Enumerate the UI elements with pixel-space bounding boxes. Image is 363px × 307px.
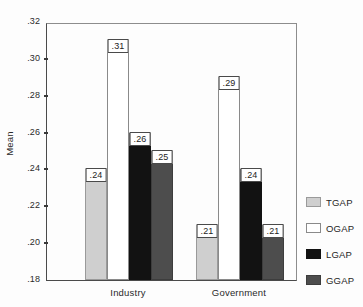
y-axis-tick-mark [44,95,48,97]
legend-item-ogap[interactable]: OGAP [306,222,354,234]
plot-area: .18.20.22.24.26.28.30.32 .24.31.26.25.21… [46,23,297,281]
legend-swatch-ggap [306,275,321,285]
bar-lgap-government [240,169,262,280]
legend-swatch-ogap [306,223,321,233]
legend-label: OGAP [326,223,354,234]
y-axis-tick-label: .26 [27,127,40,137]
bar-value-label: .21 [197,224,218,238]
y-axis-tick-mark [44,168,48,170]
bar-value-label: .21 [263,224,284,238]
y-axis-tick-mark [44,58,48,60]
legend-item-tgap[interactable]: TGAP [306,196,353,208]
bar-value-label: .31 [108,39,129,53]
bar-ogap-industry [107,40,129,280]
legend-label: LGAP [326,249,352,260]
chart-figure: Mean .18.20.22.24.26.28.30.32 .24.31.26.… [0,0,363,307]
bar-value-label: .24 [86,168,107,182]
legend-item-lgap[interactable]: LGAP [306,248,352,260]
bar-tgap-industry [85,169,107,280]
bar-value-label: .26 [130,132,151,146]
y-axis-tick-label: .22 [27,200,40,210]
x-axis-label-government: Government [212,287,266,298]
legend-swatch-tgap [306,197,321,207]
y-axis-tick-label: .24 [27,163,40,173]
x-axis-label-industry: Industry [110,287,145,298]
legend-label: GGAP [326,275,354,286]
bar-lgap-industry [129,133,151,280]
bar-value-label: .29 [219,76,240,90]
bar-ogap-government [218,77,240,280]
legend-label: TGAP [326,197,353,208]
y-axis-tick-label: .20 [27,237,40,247]
y-axis-tick-mark [44,132,48,134]
y-axis-tick-label: .18 [27,274,40,284]
bar-value-label: .25 [152,150,173,164]
y-axis-title: Mean [4,114,15,174]
y-axis-tick-mark [44,242,48,244]
legend-swatch-lgap [306,249,321,259]
y-axis-tick-mark [44,205,48,207]
bar-value-label: .24 [241,168,262,182]
y-axis-tick-label: .30 [27,53,40,63]
y-axis-tick-label: .28 [27,90,40,100]
bar-ggap-industry [151,151,173,280]
legend-item-ggap[interactable]: GGAP [306,274,354,286]
y-axis-tick-label: .32 [27,16,40,26]
